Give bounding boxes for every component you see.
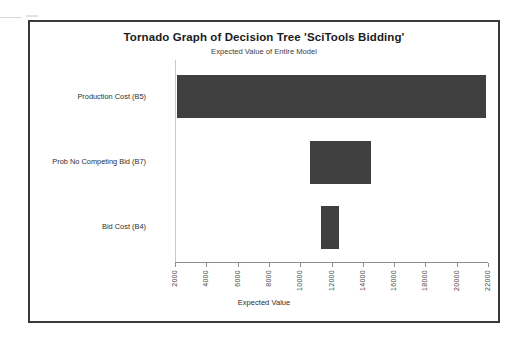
x-axis-title: Expected Value xyxy=(30,298,498,307)
x-axis-tick-label: 16000 xyxy=(390,270,397,291)
x-axis-tick xyxy=(457,263,458,267)
tornado-chart: Tornado Graph of Decision Tree 'SciTools… xyxy=(30,22,498,321)
x-axis-tick xyxy=(238,263,239,267)
tornado-bar xyxy=(321,206,340,249)
chart-title: Tornado Graph of Decision Tree 'SciTools… xyxy=(30,30,498,44)
chart-frame: Tornado Graph of Decision Tree 'SciTools… xyxy=(28,20,500,323)
x-axis-tick-label: 22000 xyxy=(484,270,491,291)
chart-title-block: Tornado Graph of Decision Tree 'SciTools… xyxy=(30,30,498,58)
tornado-bar xyxy=(177,75,486,118)
x-axis-tick xyxy=(488,263,489,267)
y-axis-category-label: Production Cost (B5) xyxy=(77,92,146,102)
x-axis-tick-label: 4000 xyxy=(202,270,209,287)
x-axis-tick xyxy=(394,263,395,267)
x-axis-tick-label: 10000 xyxy=(296,270,303,291)
x-axis-tick xyxy=(269,263,270,267)
x-axis-tick xyxy=(332,263,333,267)
y-axis-category-label: Bid Cost (B4) xyxy=(102,222,146,232)
x-axis-tick xyxy=(206,263,207,267)
x-axis-tick-label: 6000 xyxy=(234,270,241,287)
x-axis-tick-label: 8000 xyxy=(265,270,272,287)
tornado-bar xyxy=(310,141,371,184)
x-axis-tick-label: 2000 xyxy=(171,270,178,287)
chart-subtitle: Expected Value of Entire Model xyxy=(30,46,498,58)
x-axis-tick-label: 20000 xyxy=(453,270,460,291)
scan-artifact-marks xyxy=(26,15,38,17)
x-axis-tick-label: 18000 xyxy=(421,270,428,291)
x-axis-tick xyxy=(300,263,301,267)
scan-artifact-line xyxy=(0,17,22,18)
x-axis-tick-label: 14000 xyxy=(359,270,366,291)
x-axis-tick-label: 12000 xyxy=(328,270,335,291)
x-axis-tick xyxy=(425,263,426,267)
x-axis-tick xyxy=(175,263,176,267)
y-axis-category-label: Prob No Competing Bid (B7) xyxy=(52,157,146,167)
x-axis-tick xyxy=(363,263,364,267)
y-axis-line xyxy=(175,60,176,263)
